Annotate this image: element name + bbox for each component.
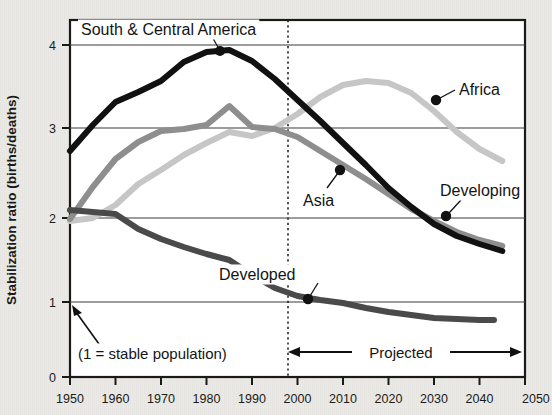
x-tick-label-1980: 1980	[193, 392, 221, 406]
marker-dot-africa	[431, 95, 441, 105]
series-label-developed: Developed	[219, 266, 296, 283]
series-label-developing: Developing	[440, 182, 520, 199]
series-label-africa: Africa	[459, 81, 500, 98]
x-tick-label-2010: 2010	[329, 392, 357, 406]
y-tick-label-0: 0	[49, 371, 56, 385]
y-tick-label-2: 2	[49, 212, 56, 226]
y-tick-label-3: 3	[49, 122, 56, 136]
marker-dot-developed	[303, 294, 313, 304]
y-axis-title: Stabilization ratio (births/deaths)	[4, 95, 19, 305]
x-tick-label-1960: 1960	[102, 392, 130, 406]
x-tick-label-2040: 2040	[466, 392, 494, 406]
x-tick-label-2050: 2050	[522, 392, 550, 406]
series-label-south-central-america: South & Central America	[81, 21, 256, 38]
y-tick-label-4: 4	[49, 39, 56, 53]
x-tick-label-1990: 1990	[238, 392, 266, 406]
x-tick-label-1970: 1970	[147, 392, 175, 406]
series-label-asia: Asia	[303, 192, 334, 209]
y-tick-label-1: 1	[49, 296, 56, 310]
marker-dot-developing	[441, 211, 451, 221]
x-tick-label-2000: 2000	[284, 392, 312, 406]
marker-dot-asia	[335, 165, 345, 175]
chart-figure: 4 3 2 1 0 1950 1960 1970 1980 1990 2000 …	[0, 0, 552, 415]
marker-dot-south-central-america	[215, 46, 225, 56]
x-tick-label-2030: 2030	[420, 392, 448, 406]
stable-population-note: (1 = stable population)	[78, 345, 227, 362]
x-axis-ticks	[70, 377, 525, 385]
x-tick-label-1950: 1950	[56, 392, 84, 406]
stabilization-ratio-line-chart: 4 3 2 1 0 1950 1960 1970 1980 1990 2000 …	[0, 0, 552, 415]
x-tick-label-2020: 2020	[375, 392, 403, 406]
projected-label: Projected	[369, 344, 432, 361]
